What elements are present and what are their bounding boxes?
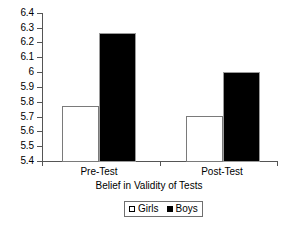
bar-boys-post-test: [223, 72, 260, 162]
chart-legend: Girls Boys: [124, 201, 203, 217]
bar-girls-post-test: [186, 116, 223, 162]
y-axis-tick: [37, 72, 42, 73]
y-axis-tick: [37, 102, 42, 103]
x-axis-tick: [42, 162, 43, 166]
x-axis-tick: [160, 162, 161, 166]
y-axis-tick: [37, 131, 42, 132]
y-axis-label: 5.8: [4, 97, 34, 107]
x-axis-title: Belief in Validity of Tests: [0, 180, 298, 192]
y-axis-tick: [37, 87, 42, 88]
y-axis-tick: [37, 42, 42, 43]
y-axis-tick: [37, 13, 42, 14]
y-axis-tick: [37, 117, 42, 118]
y-axis-line: [42, 13, 43, 162]
y-axis-label: 5.6: [4, 126, 34, 136]
x-axis-tick: [277, 162, 278, 166]
y-axis-label: 5.4: [4, 156, 34, 166]
y-axis-label: 6.1: [4, 52, 34, 62]
legend-swatch-boys-icon: [167, 206, 173, 212]
legend-entry-girls: Girls: [129, 203, 159, 214]
y-axis-label: 6: [4, 67, 34, 77]
legend-label-boys: Boys: [176, 203, 198, 214]
bar-boys-pre-test: [99, 33, 136, 162]
legend-entry-boys: Boys: [167, 203, 198, 214]
y-axis-label: 5.7: [4, 112, 34, 122]
y-axis-label: 5.5: [4, 141, 34, 151]
bar-chart: 6.4 6.3 6.2 6.1 6 5.9 5.8 5.7 5.6 5.5 5.…: [0, 0, 298, 229]
x-axis-category-pre-test: Pre-Test: [59, 166, 139, 178]
legend-swatch-girls-icon: [129, 206, 135, 212]
bar-girls-pre-test: [62, 106, 99, 162]
y-axis-label: 6.3: [4, 23, 34, 33]
y-axis-label: 6.2: [4, 37, 34, 47]
y-axis-tick: [37, 57, 42, 58]
y-axis-label: 5.9: [4, 82, 34, 92]
y-axis-tick: [37, 28, 42, 29]
x-axis-category-post-test: Post-Test: [182, 166, 262, 178]
y-axis-tick: [37, 146, 42, 147]
legend-label-girls: Girls: [138, 203, 159, 214]
y-axis-label: 6.4: [4, 8, 34, 18]
